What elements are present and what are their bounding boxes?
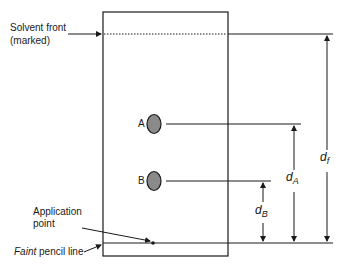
d-a-sub: A <box>293 176 299 186</box>
d-a-label: dA <box>286 170 299 186</box>
d-b-sub: B <box>262 209 268 219</box>
solvent-front-label-2: (marked) <box>10 35 50 47</box>
spot-a <box>147 115 161 134</box>
d-f-main: d <box>320 150 327 164</box>
application-point <box>151 241 155 245</box>
tlc-plate <box>103 12 228 256</box>
pencil-line-text: pencil line <box>36 246 83 257</box>
d-f-label: df <box>320 150 329 166</box>
d-a-main: d <box>286 170 293 184</box>
faint-text: Faint <box>14 246 36 257</box>
d-b-label: dB <box>255 203 268 219</box>
pencil-line-label: Faint pencil line <box>14 246 84 258</box>
d-f-sub: f <box>327 156 330 166</box>
solvent-front-label: Solvent front <box>10 22 66 34</box>
application-point-label: Application <box>33 206 82 218</box>
application-point-label-2: point <box>33 218 55 230</box>
spot-b <box>147 172 161 191</box>
spot-b-label: B <box>138 175 145 187</box>
spot-a-label: A <box>138 118 145 130</box>
d-b-main: d <box>255 203 262 217</box>
